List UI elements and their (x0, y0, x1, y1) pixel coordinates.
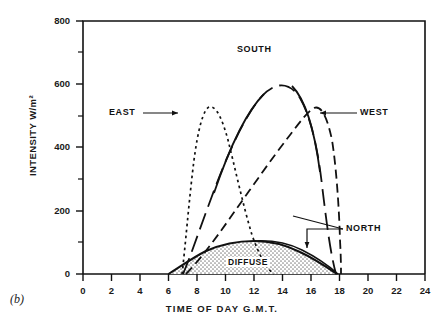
north-label: NORTH (346, 223, 381, 233)
x-tick-18: 18 (328, 285, 352, 296)
y-tick-800: 800 (36, 15, 70, 26)
y-tick-0: 0 (36, 268, 70, 279)
x-tick-22: 22 (385, 285, 409, 296)
east-label: EAST (109, 107, 135, 117)
x-tick-24: 24 (413, 285, 437, 296)
x-tick-14: 14 (271, 285, 295, 296)
figure-panel-b: 0 200 400 600 800 0 2 4 6 8 10 12 14 16 … (0, 0, 444, 332)
x-tick-16: 16 (299, 285, 323, 296)
x-tick-0: 0 (71, 285, 95, 296)
x-tick-10: 10 (214, 285, 238, 296)
west-label: WEST (360, 107, 388, 117)
y-axis-ticks (76, 21, 83, 274)
x-tick-8: 8 (185, 285, 209, 296)
plot-frame (83, 21, 425, 274)
north-leader-2 (293, 216, 343, 229)
y-axis-title: INTENSITY W/m² (27, 56, 38, 216)
diffuse-label: DIFFUSE (226, 257, 270, 267)
y-tick-200: 200 (36, 205, 70, 216)
x-tick-4: 4 (128, 285, 152, 296)
x-tick-6: 6 (157, 285, 181, 296)
panel-letter: (b) (10, 292, 24, 307)
x-tick-2: 2 (100, 285, 124, 296)
x-tick-20: 20 (356, 285, 380, 296)
x-tick-12: 12 (242, 285, 266, 296)
south-curve-solid-top (214, 94, 264, 193)
x-axis-title: TIME OF DAY G.M.T. (0, 303, 444, 314)
south-curve-solid-right (292, 86, 320, 172)
chart-canvas (0, 0, 444, 332)
y-tick-400: 400 (36, 141, 70, 152)
south-label: SOUTH (237, 44, 272, 54)
x-axis-ticks (83, 274, 425, 281)
y-tick-600: 600 (36, 78, 70, 89)
north-leader (307, 229, 343, 248)
